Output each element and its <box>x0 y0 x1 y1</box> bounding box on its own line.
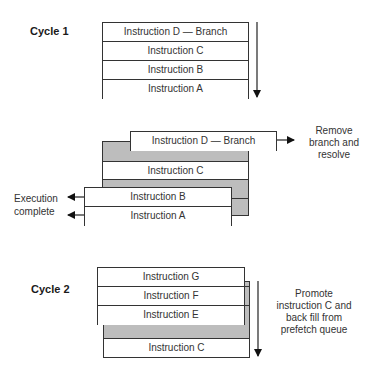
completed-row: Instruction B <box>85 188 231 207</box>
remove-branch-note: Remove branch and resolve <box>294 125 373 161</box>
queue-row: Instruction B <box>103 61 248 80</box>
note-line: prefetch queue <box>268 324 360 336</box>
note-line: branch and <box>294 137 373 149</box>
branch-row: Instruction D — Branch <box>131 132 276 151</box>
transition-branch-box: Instruction D — Branch <box>130 131 277 151</box>
cycle1-label: Cycle 1 <box>30 25 69 37</box>
execution-complete-note: Execution complete <box>14 192 66 218</box>
note-line: Promote <box>268 288 360 300</box>
promote-note: Promote instruction C and back fill from… <box>268 288 360 336</box>
note-line: Remove <box>294 125 373 137</box>
queue-row: Instruction A <box>103 80 248 99</box>
note-line: complete <box>14 205 66 218</box>
completed-row: Instruction A <box>85 207 231 226</box>
cycle2-label: Cycle 2 <box>31 283 70 295</box>
transition-completed-stack: Instruction B Instruction A <box>84 187 232 226</box>
note-line: instruction C and <box>268 300 360 312</box>
cycle1-queue: Instruction D — Branch Instruction C Ins… <box>102 22 249 99</box>
promoted-row-c: Instruction C <box>104 338 249 357</box>
cycle2-front-stack: Instruction G Instruction F Instruction … <box>97 267 245 325</box>
queue-row: Instruction D — Branch <box>103 23 248 42</box>
queue-row: Instruction E <box>98 306 244 325</box>
transition-row-c: Instruction C <box>103 161 248 180</box>
note-line: resolve <box>294 149 373 161</box>
divider <box>231 198 248 199</box>
queue-row: Instruction F <box>98 287 244 306</box>
note-line: back fill from <box>268 312 360 324</box>
note-line: Execution <box>14 192 66 205</box>
queue-row: Instruction G <box>98 268 244 287</box>
queue-row: Instruction C <box>103 42 248 61</box>
